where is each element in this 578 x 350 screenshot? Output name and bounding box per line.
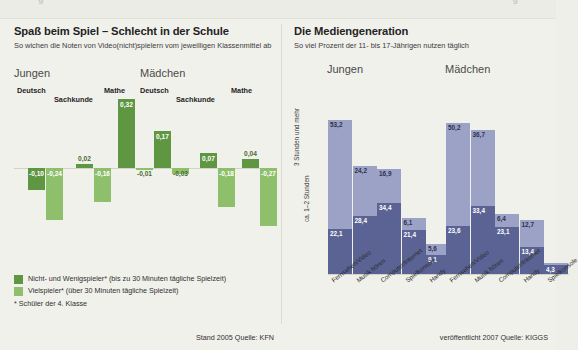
legend-swatch-dark-green xyxy=(14,275,23,284)
left-bar-value: -0,24 xyxy=(46,170,63,177)
left-bar-jungen-sachkunde-wenigspieler: 0,02 xyxy=(76,164,93,168)
right-segment-value: 53,2 xyxy=(330,121,342,128)
right-stacked-bar-chart: 3 Stunden und mehr ca. 1–2 Stunden 53,22… xyxy=(294,74,552,274)
left-bar-m-dchen-sachkunde-vielspieler: -0,18 xyxy=(218,168,235,207)
right-segment-value: 5,6 xyxy=(428,245,437,252)
left-bar-value: -0,18 xyxy=(218,170,235,177)
right-segment-value: 23,1 xyxy=(497,228,509,235)
right-segment-value: 23,6 xyxy=(448,227,460,234)
legend-label-wenigspieler: Nicht- und Wenigspieler* (bis zu 30 Minu… xyxy=(28,274,226,284)
right-axis-label-1-2-stunden: ca. 1–2 Stunden xyxy=(303,175,310,222)
right-stacked-bar-jungen-fernsehen-video: 53,222,1 xyxy=(328,120,352,274)
right-segment-1-2-stunden: 6,1 xyxy=(402,218,426,231)
left-bar-value: 0,04 xyxy=(242,150,259,157)
left-bar-value: -0,01 xyxy=(136,170,153,177)
left-bar-m-dchen-deutsch-vielspieler: -0,03 xyxy=(172,168,189,174)
left-bar-jungen-mathe-wenigspieler: 0,32 xyxy=(118,99,135,168)
right-stacked-bar-mädchen-fernsehen-video: 50,223,6 xyxy=(446,123,470,274)
left-panel: Spaß beim Spiel – Schlecht in der Schule… xyxy=(0,18,282,350)
right-segment-value: 34,4 xyxy=(379,204,391,211)
left-bar-value: 0,32 xyxy=(118,101,135,108)
left-bar-value: -0,27 xyxy=(260,170,277,177)
left-footnote: * Schüler der 4. Klasse xyxy=(14,299,276,308)
left-bar-jungen-deutsch-vielspieler: -0,24 xyxy=(46,168,63,220)
left-legend: Nicht- und Wenigspieler* (bis zu 30 Minu… xyxy=(14,274,276,308)
right-segment-1-2-stunden: 53,2 xyxy=(328,120,352,229)
right-segment-value: 6,4 xyxy=(497,215,506,222)
right-segment-value: 33,4 xyxy=(473,207,485,214)
left-subtitle: So wichen die Noten von Video(nicht)spie… xyxy=(14,41,272,51)
right-segment-value: 12,7 xyxy=(522,221,534,228)
right-segment-1-2-stunden: 6,4 xyxy=(495,214,519,227)
left-bar-value: -0,10 xyxy=(28,170,45,177)
left-bar-value: 0,17 xyxy=(154,133,171,140)
left-bar-value: 0,07 xyxy=(200,155,217,162)
page-top-strip: g g xyxy=(0,0,556,19)
left-bar-jungen-sachkunde-vielspieler: -0,16 xyxy=(94,168,111,202)
left-bar-m-dchen-sachkunde-wenigspieler: 0,07 xyxy=(200,153,217,168)
left-bar-value: 0,02 xyxy=(76,155,93,162)
right-segment-1-2-stunden: 36,7 xyxy=(471,130,495,205)
right-segment-1-2-stunden: 50,2 xyxy=(446,123,470,226)
left-bar-m-dchen-deutsch-wenigspieler: 0,17 xyxy=(154,131,171,168)
legend-swatch-light-green xyxy=(14,287,23,296)
right-segment-value: 28,4 xyxy=(355,217,367,224)
left-bar-value: -0,16 xyxy=(94,170,111,177)
ghost-mark-right: g xyxy=(513,0,519,4)
left-bar-jungen-mathe-vielspieler: -0,01 xyxy=(136,168,153,170)
right-segment-value: 16,9 xyxy=(379,170,391,177)
right-axis-label-3-stunden: 3 Stunden und mehr xyxy=(293,108,300,166)
right-segment-value: 21,4 xyxy=(404,231,416,238)
right-segment-value: 6,1 xyxy=(404,219,413,226)
right-segment-1-2-stunden: 24,2 xyxy=(353,166,377,216)
left-bar-jungen-deutsch-wenigspieler: -0,10 xyxy=(28,168,45,190)
right-segment-1-2-stunden: 16,9 xyxy=(377,169,401,204)
ghost-mark-left: g xyxy=(38,0,44,4)
left-bar-value: -0,03 xyxy=(172,170,189,177)
right-segment-value: 50,2 xyxy=(448,124,460,131)
right-segment-value: 24,2 xyxy=(355,167,367,174)
right-title: Die Mediengeneration xyxy=(294,25,550,37)
left-bar-m-dchen-mathe-vielspieler: -0,27 xyxy=(260,168,277,226)
right-panel: Die Mediengeneration So viel Prozent der… xyxy=(282,18,556,350)
left-source: Stand 2005 Quelle: KFN xyxy=(196,333,274,342)
right-segment-value: 36,7 xyxy=(473,131,485,138)
right-segment-1-2-stunden: 12,7 xyxy=(520,220,544,246)
legend-item-wenigspieler: Nicht- und Wenigspieler* (bis zu 30 Minu… xyxy=(14,274,276,284)
legend-label-vielspieler: Vielspieler* (über 30 Minuten tägliche S… xyxy=(28,286,179,296)
left-bar-chart: -0,10-0,240,02-0,160,32-0,010,17-0,030,0… xyxy=(14,78,272,268)
legend-item-vielspieler: Vielspieler* (über 30 Minuten tägliche S… xyxy=(14,286,276,296)
right-subtitle: So viel Prozent der 11- bis 17-Jährigen … xyxy=(294,41,550,51)
right-segment-value: 22,1 xyxy=(330,230,342,237)
left-title: Spaß beim Spiel – Schlecht in der Schule xyxy=(14,25,272,37)
right-source: veröffentlicht 2007 Quelle: KIGGS xyxy=(440,333,548,342)
left-bar-m-dchen-mathe-wenigspieler: 0,04 xyxy=(242,159,259,168)
